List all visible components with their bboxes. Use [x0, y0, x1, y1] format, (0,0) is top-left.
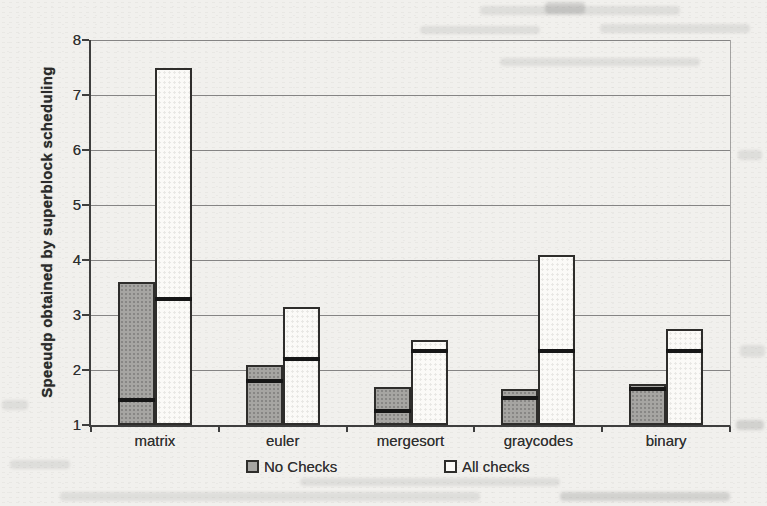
legend-label-no-checks: No Checks	[264, 458, 337, 475]
scan-artifact	[60, 492, 480, 501]
scan-artifact	[740, 345, 765, 357]
bar-binary-all-checks	[666, 329, 703, 425]
legend-item-all-checks: All checks	[444, 458, 530, 475]
y-tick-label: 2	[53, 361, 81, 379]
y-axis-tick	[82, 149, 89, 151]
bar-euler-all-checks	[283, 307, 320, 425]
y-axis-tick	[82, 204, 89, 206]
median-marker-graycodes-no-checks	[501, 396, 538, 400]
all-checks-swatch	[444, 460, 457, 473]
y-axis-tick	[82, 314, 89, 316]
y-tick-label: 4	[53, 251, 81, 269]
y-tick-label: 3	[53, 306, 81, 324]
median-marker-binary-all-checks	[666, 349, 703, 353]
scan-artifact	[560, 492, 730, 501]
y-tick-label: 6	[53, 141, 81, 159]
median-marker-mergesort-no-checks	[374, 409, 411, 413]
y-tick-label: 1	[53, 416, 81, 434]
y-axis-title: Speeudp obtained by superblock schedulin…	[38, 66, 55, 398]
y-tick-label: 5	[53, 196, 81, 214]
y-axis-tick	[82, 369, 89, 371]
scan-artifact	[600, 24, 750, 33]
bar-mergesort-no-checks	[374, 387, 411, 426]
median-marker-graycodes-all-checks	[538, 349, 575, 353]
median-marker-binary-no-checks	[629, 387, 666, 391]
scan-artifact	[736, 420, 764, 430]
plot-area: 12345678matrixeulermergesortgraycodesbin…	[89, 40, 731, 427]
y-tick-label: 8	[53, 31, 81, 49]
bar-graycodes-all-checks	[538, 255, 575, 426]
legend-label-all-checks: All checks	[462, 458, 530, 475]
y-axis-tick	[82, 424, 89, 426]
bar-matrix-no-checks	[118, 282, 155, 425]
y-axis-tick	[82, 259, 89, 261]
scan-artifact	[2, 400, 28, 410]
median-marker-mergesort-all-checks	[411, 349, 448, 353]
y-axis-tick	[82, 94, 89, 96]
scanned-page: Speeudp obtained by superblock schedulin…	[0, 0, 767, 506]
gridline-8	[91, 40, 730, 41]
y-axis-tick	[82, 39, 89, 41]
y-tick-label: 7	[53, 86, 81, 104]
x-axis-label-binary: binary	[602, 432, 730, 449]
scan-artifact	[545, 2, 585, 14]
scan-artifact	[420, 26, 540, 34]
no-checks-swatch	[246, 460, 259, 473]
scan-artifact	[738, 150, 762, 160]
median-marker-euler-no-checks	[246, 379, 283, 383]
scan-artifact	[300, 478, 560, 486]
median-marker-euler-all-checks	[283, 357, 320, 361]
bar-euler-no-checks	[246, 365, 283, 426]
scan-artifact	[10, 460, 70, 469]
bar-matrix-all-checks	[155, 68, 192, 426]
median-marker-matrix-no-checks	[118, 398, 155, 402]
x-axis-label-graycodes: graycodes	[474, 432, 602, 449]
x-axis-label-euler: euler	[219, 432, 347, 449]
median-marker-matrix-all-checks	[155, 297, 192, 301]
legend-item-no-checks: No Checks	[246, 458, 337, 475]
x-axis-label-matrix: matrix	[91, 432, 219, 449]
x-axis-label-mergesort: mergesort	[347, 432, 475, 449]
